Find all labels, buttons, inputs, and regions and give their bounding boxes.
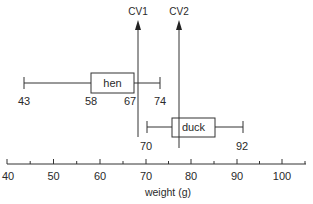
svg-text:92: 92 bbox=[236, 140, 248, 152]
svg-text:50: 50 bbox=[47, 170, 59, 182]
boxplot-diagram: 40 50 60 70 80 90 100 weight (g) hen 43 … bbox=[0, 0, 313, 204]
duck-label: duck bbox=[182, 121, 206, 133]
cv2-label: CV2 bbox=[169, 6, 189, 17]
svg-text:67: 67 bbox=[124, 95, 136, 107]
svg-text:40: 40 bbox=[2, 170, 14, 182]
svg-text:74: 74 bbox=[154, 95, 166, 107]
svg-text:100: 100 bbox=[273, 170, 291, 182]
svg-text:70: 70 bbox=[140, 170, 152, 182]
hen-boxplot bbox=[24, 73, 160, 93]
svg-text:90: 90 bbox=[231, 170, 243, 182]
svg-text:58: 58 bbox=[85, 95, 97, 107]
svg-text:70: 70 bbox=[140, 140, 152, 152]
svg-text:43: 43 bbox=[18, 95, 30, 107]
duck-value-labels: 70 92 bbox=[140, 140, 248, 152]
x-tick-labels: 40 50 60 70 80 90 100 bbox=[2, 170, 291, 182]
cv1-label: CV1 bbox=[128, 6, 148, 17]
x-axis-label: weight (g) bbox=[144, 186, 191, 198]
x-axis bbox=[7, 159, 306, 164]
hen-value-labels: 43 58 67 74 bbox=[18, 95, 166, 107]
svg-text:80: 80 bbox=[185, 170, 197, 182]
svg-text:60: 60 bbox=[94, 170, 106, 182]
cv1-arrow-icon bbox=[135, 20, 141, 137]
hen-label: hen bbox=[103, 77, 121, 89]
